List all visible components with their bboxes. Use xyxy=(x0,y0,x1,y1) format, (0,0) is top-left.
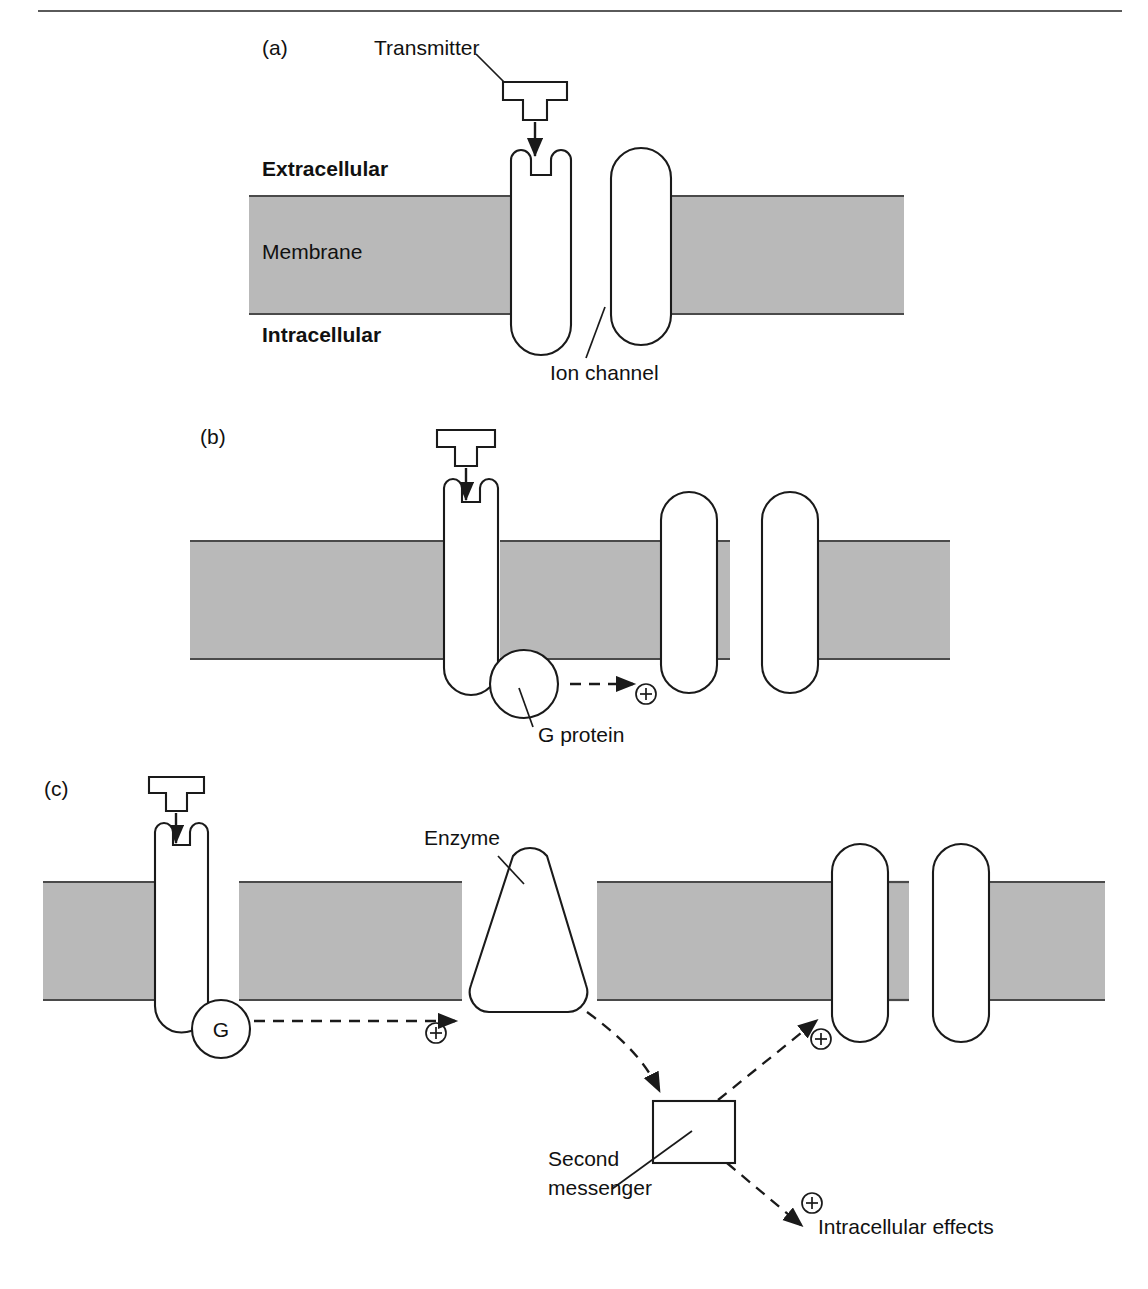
diagram-canvas: (a) Transmitter Extracellular Membrane I… xyxy=(0,0,1148,1289)
second-messenger-box xyxy=(653,1101,735,1163)
panel-label-a: (a) xyxy=(262,36,288,59)
intracellular-label-a: Intracellular xyxy=(262,323,381,346)
panel-label-b: (b) xyxy=(200,425,226,448)
plus-sign-c-2 xyxy=(811,1029,831,1049)
transmitter-label: Transmitter xyxy=(374,36,479,59)
second-messenger-to-effects-arrow xyxy=(727,1163,801,1225)
membrane-label-a: Membrane xyxy=(262,240,362,263)
enzyme-label: Enzyme xyxy=(424,826,500,849)
receptor-shape-c xyxy=(155,823,208,1033)
ion-channel-subunit-a xyxy=(611,148,671,345)
ion-channel-subunit-c-right xyxy=(933,844,989,1042)
g-protein-circle-b xyxy=(490,650,558,718)
panel-a: (a) Transmitter Extracellular Membrane I… xyxy=(249,36,904,384)
enzyme-to-second-messenger-arrow xyxy=(587,1012,659,1090)
figure-root: (a) Transmitter Extracellular Membrane I… xyxy=(0,0,1148,1289)
ion-channel-subunit-b-left xyxy=(661,492,717,693)
transmitter-shape-a xyxy=(503,82,567,120)
ion-channel-label: Ion channel xyxy=(550,361,659,384)
ion-channel-leader-line xyxy=(586,307,605,358)
ion-channel-subunit-c-left xyxy=(832,844,888,1042)
panel-c: G Enzyme Second messenger xyxy=(43,777,1105,1238)
second-messenger-label-line1: Second xyxy=(548,1147,619,1170)
second-messenger-to-channel-arrow xyxy=(718,1021,816,1100)
intracellular-effects-label: Intracellular effects xyxy=(818,1215,994,1238)
panel-label-c: (c) xyxy=(44,777,69,800)
enzyme-shape xyxy=(470,848,588,1012)
plus-sign-c-1 xyxy=(426,1023,446,1043)
extracellular-label-a: Extracellular xyxy=(262,157,388,180)
ion-channel-subunit-b-right xyxy=(762,492,818,693)
receptor-shape-a xyxy=(511,150,571,355)
transmitter-leader-line xyxy=(476,54,504,82)
second-messenger-label-line2: messenger xyxy=(548,1176,652,1199)
g-protein-label: G protein xyxy=(538,723,624,746)
receptor-shape-b xyxy=(444,479,498,695)
membrane-band-b xyxy=(190,541,950,659)
transmitter-shape-b xyxy=(437,430,495,466)
plus-sign-c-3 xyxy=(802,1193,822,1213)
panel-b: (b) G protein xyxy=(190,425,950,746)
plus-sign-b xyxy=(636,684,656,704)
transmitter-shape-c xyxy=(149,777,204,811)
g-protein-letter: G xyxy=(213,1018,229,1041)
